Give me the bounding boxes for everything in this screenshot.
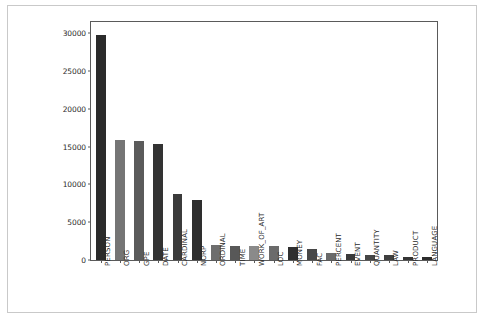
y-axis-tick-label: 15000 bbox=[63, 142, 91, 151]
x-axis-tick-mark bbox=[254, 260, 255, 263]
x-axis-tick-label-text: DATE bbox=[162, 247, 170, 266]
y-axis-tick-mark bbox=[88, 108, 91, 109]
x-axis-tick-label-text: PRODUCT bbox=[412, 231, 420, 266]
y-axis-tick-label: 30000 bbox=[63, 29, 91, 38]
x-axis-tick-mark bbox=[351, 260, 352, 263]
figure-border: 050001000015000200002500030000PERSONORGG… bbox=[7, 5, 477, 313]
x-axis-tick-label-text: ORG bbox=[123, 250, 131, 266]
x-axis-tick-mark bbox=[331, 260, 332, 263]
y-axis-tick-mark bbox=[88, 260, 91, 261]
x-axis-tick-label-text: ORDINAL bbox=[219, 233, 227, 266]
x-axis-tick-label-text: LOC bbox=[277, 252, 285, 267]
x-axis-tick-label-text: LANGUAGE bbox=[431, 226, 439, 266]
x-axis-tick-mark bbox=[216, 260, 217, 263]
x-axis-tick-mark bbox=[197, 260, 198, 263]
x-axis-tick-label-text: QUANTITY bbox=[373, 229, 381, 266]
x-axis-tick-mark bbox=[408, 260, 409, 263]
plot-area: 050001000015000200002500030000PERSONORGG… bbox=[91, 22, 437, 260]
x-axis-tick-mark bbox=[158, 260, 159, 263]
x-axis-tick-label-text: LAW bbox=[392, 250, 400, 266]
x-axis-tick-mark bbox=[120, 260, 121, 263]
x-axis-tick-label-text: PERSON bbox=[104, 236, 112, 266]
x-axis-tick-label-text: EVENT bbox=[354, 242, 362, 266]
y-axis-tick-label: 25000 bbox=[63, 67, 91, 76]
x-axis-tick-mark bbox=[312, 260, 313, 263]
x-axis-tick-label-text: WORK_OF_ART bbox=[258, 213, 266, 267]
bar-org bbox=[115, 140, 125, 260]
y-axis-tick-label: 10000 bbox=[63, 180, 91, 189]
y-axis-tick-mark bbox=[88, 222, 91, 223]
x-axis-tick-label-text: FAC bbox=[316, 253, 324, 266]
bar-date bbox=[153, 144, 163, 260]
bar-person bbox=[96, 35, 106, 260]
x-axis-tick-mark bbox=[235, 260, 236, 263]
x-axis-tick-label-text: CARDINAL bbox=[181, 229, 189, 266]
x-axis-tick-label-text: PERCENT bbox=[335, 233, 343, 266]
x-axis-tick-mark bbox=[370, 260, 371, 263]
x-axis-tick-label-text: MONEY bbox=[296, 240, 304, 266]
x-axis-tick-mark bbox=[274, 260, 275, 263]
x-axis-tick-mark bbox=[293, 260, 294, 263]
bar-gpe bbox=[134, 141, 144, 260]
y-axis-tick-mark bbox=[88, 33, 91, 34]
x-axis-tick-mark bbox=[101, 260, 102, 263]
x-axis-tick-label-text: NORP bbox=[200, 246, 208, 266]
x-axis-tick-mark bbox=[427, 260, 428, 263]
x-axis-tick-mark bbox=[139, 260, 140, 263]
x-axis-tick-mark bbox=[178, 260, 179, 263]
y-axis-tick-label: 20000 bbox=[63, 104, 91, 113]
y-axis-tick-mark bbox=[88, 71, 91, 72]
plot-axes: 050001000015000200002500030000PERSONORGG… bbox=[90, 21, 438, 261]
x-axis-tick-label-text: TIME bbox=[239, 249, 247, 266]
x-axis-tick-label-text: GPE bbox=[143, 251, 151, 266]
chart-figure: 050001000015000200002500030000PERSONORGG… bbox=[0, 0, 484, 327]
y-axis-tick-mark bbox=[88, 184, 91, 185]
y-axis-tick-mark bbox=[88, 146, 91, 147]
x-axis-tick-mark bbox=[389, 260, 390, 263]
